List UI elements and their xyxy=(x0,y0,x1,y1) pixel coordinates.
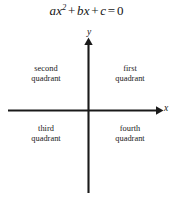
quadrant-label-third: third quadrant xyxy=(13,124,79,144)
y-axis-label: y xyxy=(83,27,95,37)
quadrant-fourth-line1: fourth xyxy=(97,124,163,134)
quadrant-third-line1: third xyxy=(13,124,79,134)
coordinate-plane-figure: ax2+bx+c=0 y x second quadrant first qua… xyxy=(0,0,173,197)
x-axis-arrowhead xyxy=(156,106,164,115)
quadrant-label-second: second quadrant xyxy=(13,64,79,84)
quadrant-third-line2: quadrant xyxy=(13,134,79,144)
quadrant-second-line2: quadrant xyxy=(13,74,79,84)
quadrant-label-fourth: fourth quadrant xyxy=(97,124,163,144)
quadrant-label-first: first quadrant xyxy=(97,64,163,84)
quadrant-fourth-line2: quadrant xyxy=(97,134,163,144)
quadrant-first-line2: quadrant xyxy=(97,74,163,84)
quadrant-second-line1: second xyxy=(13,64,79,74)
quadrant-first-line1: first xyxy=(97,64,163,74)
y-axis-arrowhead xyxy=(84,38,92,46)
x-axis-label: x xyxy=(164,103,173,113)
